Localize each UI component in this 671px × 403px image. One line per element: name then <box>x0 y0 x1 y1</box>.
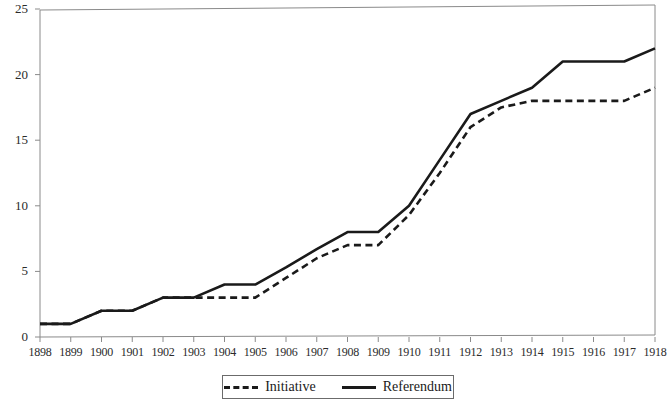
x-axis-tick-label: 1910 <box>392 346 426 358</box>
x-axis-tick-label: 1907 <box>300 346 334 358</box>
x-axis-tick-label: 1898 <box>23 346 57 358</box>
legend-swatch-dashed-icon <box>224 386 258 389</box>
y-axis-tick-label: 5 <box>2 264 28 277</box>
x-axis-tick-label: 1917 <box>607 346 641 358</box>
x-axis-tick-label: 1905 <box>238 346 272 358</box>
y-axis-tick-label: 15 <box>2 133 28 146</box>
x-axis-tick-label: 1906 <box>269 346 303 358</box>
x-axis-tick-label: 1911 <box>423 346 457 358</box>
legend-entry-initiative: Initiative <box>224 379 316 395</box>
x-axis-tick-label: 1902 <box>146 346 180 358</box>
y-axis-tick-label: 0 <box>2 330 28 343</box>
plot-frame <box>40 5 655 337</box>
x-axis-tick-label: 1913 <box>484 346 518 358</box>
x-axis-tick-label: 1912 <box>454 346 488 358</box>
line-chart: 0510152025 18981899190019011902190319041… <box>0 0 671 403</box>
legend-entry-referendum: Referendum <box>342 379 452 395</box>
chart-legend: InitiativeReferendum <box>222 375 454 399</box>
legend-label: Initiative <box>265 379 316 395</box>
x-axis-tick-label: 1899 <box>54 346 88 358</box>
x-axis-tick-label: 1916 <box>577 346 611 358</box>
plot-area <box>0 0 671 403</box>
x-axis-tick-label: 1904 <box>208 346 242 358</box>
y-axis-tick-label: 25 <box>2 2 28 15</box>
x-axis-ticks <box>40 337 655 342</box>
y-axis-tick-label: 10 <box>2 199 28 212</box>
x-axis-tick-label: 1903 <box>177 346 211 358</box>
data-series-group <box>40 48 655 324</box>
series-line-referendum <box>40 48 655 324</box>
x-axis-tick-label: 1908 <box>331 346 365 358</box>
x-axis-tick-label: 1914 <box>515 346 549 358</box>
series-line-initiative <box>40 88 655 324</box>
legend-swatch-solid-icon <box>342 386 376 389</box>
y-axis-ticks <box>35 9 40 337</box>
x-axis-tick-label: 1900 <box>85 346 119 358</box>
x-axis-tick-label: 1915 <box>546 346 580 358</box>
y-axis-tick-label: 20 <box>2 68 28 81</box>
x-axis-tick-label: 1901 <box>115 346 149 358</box>
legend-label: Referendum <box>383 379 452 395</box>
x-axis-tick-label: 1918 <box>638 346 671 358</box>
x-axis-tick-label: 1909 <box>361 346 395 358</box>
